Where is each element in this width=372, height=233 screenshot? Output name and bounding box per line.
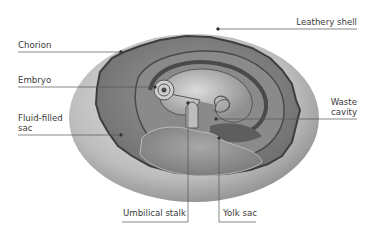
label-fluid-line1: Fluid-filled	[18, 113, 63, 123]
label-umbilical-stalk: Umbilical stalk	[123, 208, 186, 218]
label-waste-cavity: Waste cavity	[331, 97, 357, 117]
label-waste-line1: Waste	[331, 97, 357, 107]
label-yolk-sac: Yolk sac	[223, 208, 257, 218]
label-fluid-filled-sac: Fluid-filled sac	[18, 113, 63, 133]
label-embryo: Embryo	[18, 75, 51, 85]
label-waste-line2: cavity	[331, 107, 357, 117]
label-fluid-line2: sac	[18, 123, 63, 133]
label-chorion: Chorion	[18, 40, 51, 50]
label-leathery-shell: Leathery shell	[296, 17, 357, 27]
